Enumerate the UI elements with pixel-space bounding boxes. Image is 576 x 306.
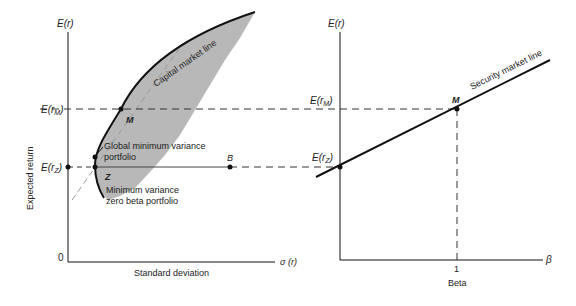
capm-diagram: E(r) Expected return 0 σ (r) Standard de… xyxy=(0,0,576,306)
point-m-left xyxy=(119,107,124,112)
right-y-axis-label: E(r) xyxy=(328,18,345,29)
origin-label: 0 xyxy=(58,252,64,263)
point-m-right xyxy=(455,107,460,112)
left-x-axis-label: σ (r) xyxy=(280,257,297,267)
left-y-axis-label: E(r) xyxy=(57,18,74,29)
left-x-axis-title: Standard deviation xyxy=(134,268,209,278)
mvzb-label-line2: zero beta portfolio xyxy=(106,196,178,206)
security-market-line xyxy=(316,60,550,177)
point-erz-right xyxy=(338,165,343,170)
right-x-axis-label: β xyxy=(545,254,552,265)
point-z-label: Z xyxy=(104,172,111,182)
right-erm-label: E(rM) xyxy=(310,95,333,107)
left-erz-label: E(rZ) xyxy=(41,162,62,174)
point-m-label-left: M xyxy=(126,115,134,125)
gmv-label-line1: Global minimum variance xyxy=(104,141,206,151)
gmv-label-line2: portfolio xyxy=(104,152,136,162)
point-b xyxy=(228,165,233,170)
point-z xyxy=(93,165,98,170)
point-erz-axis xyxy=(66,165,71,170)
right-x-axis-title: Beta xyxy=(448,278,467,288)
right-erz-label: E(rZ) xyxy=(312,152,333,164)
feasible-set-shading xyxy=(95,12,255,200)
left-y-axis-title: Expected return xyxy=(25,146,35,210)
left-erm-label: E(rM) xyxy=(41,104,64,116)
point-gmv xyxy=(93,155,98,160)
point-b-label: B xyxy=(227,153,233,163)
point-m-label-right: M xyxy=(452,95,460,105)
tick-label-1: 1 xyxy=(454,264,459,274)
mvzb-label-line1: Minimum variance xyxy=(106,185,179,195)
